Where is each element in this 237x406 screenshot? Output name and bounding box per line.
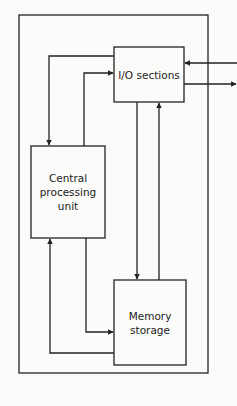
edge-memory-to-cpu [50, 239, 114, 353]
edge-io-to-cpu [49, 56, 114, 145]
cpu-label-line2: processing [40, 185, 97, 199]
cpu-label-line3: unit [58, 199, 78, 213]
io-label: I/O sections [114, 47, 184, 102]
memory-label: Memory storage [114, 280, 186, 365]
edge-cpu-to-io [84, 73, 113, 146]
memory-label-line1: Memory [129, 309, 172, 323]
memory-label-line2: storage [130, 323, 170, 337]
cpu-label-line1: Central [49, 171, 87, 185]
io-label-text: I/O sections [118, 68, 180, 82]
cpu-label: Central processing unit [31, 146, 105, 238]
edge-cpu-to-memory [86, 238, 113, 332]
